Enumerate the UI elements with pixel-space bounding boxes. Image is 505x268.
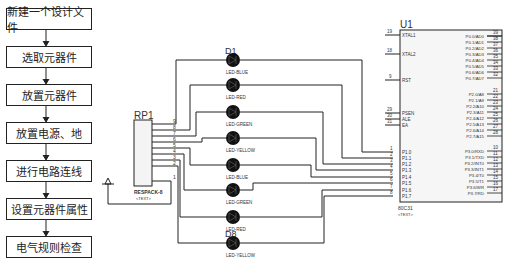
svg-text:21: 21: [493, 88, 499, 93]
led-d3: LED-GREEN: [226, 105, 252, 127]
svg-text:31: 31: [387, 119, 393, 124]
svg-text:32: 32: [493, 72, 499, 77]
svg-text:P2.1/A9: P2.1/A9: [469, 98, 485, 103]
svg-text:9: 9: [389, 74, 392, 79]
svg-text:P1.0: P1.0: [402, 150, 412, 155]
svg-text:P3.1/TXD: P3.1/TXD: [465, 155, 484, 160]
svg-text:LED-GREEN: LED-GREEN: [226, 122, 252, 127]
svg-text:XTAL1: XTAL1: [402, 33, 416, 38]
svg-text:14: 14: [493, 169, 499, 174]
svg-text:28: 28: [493, 130, 499, 135]
svg-text:P0.1/AD1: P0.1/AD1: [466, 40, 485, 45]
svg-text:2: 2: [173, 160, 176, 166]
svg-text:P3.0/RXD: P3.0/RXD: [465, 149, 484, 154]
svg-text:33: 33: [493, 66, 499, 71]
svg-text:11: 11: [493, 151, 498, 156]
svg-text:RST: RST: [402, 78, 411, 83]
svg-text:<TEXT>: <TEXT>: [398, 212, 414, 217]
svg-text:ALE: ALE: [402, 117, 411, 122]
svg-text:LED-GREEN: LED-GREEN: [226, 200, 252, 205]
svg-text:17: 17: [493, 187, 499, 192]
svg-text:P3.6/WR: P3.6/WR: [467, 185, 484, 190]
led-d6: LED-GREEN: [226, 183, 252, 205]
svg-text:39: 39: [493, 30, 499, 35]
svg-text:15: 15: [493, 175, 499, 180]
svg-text:5: 5: [390, 171, 393, 176]
svg-text:34: 34: [493, 60, 499, 65]
svg-text:P2.7/A15: P2.7/A15: [466, 134, 484, 139]
svg-text:1: 1: [390, 146, 393, 151]
rp1-ref: RP1: [134, 110, 154, 121]
svg-text:P1.4: P1.4: [402, 175, 412, 180]
svg-text:P3.7/RD: P3.7/RD: [468, 191, 484, 196]
led-d2: LED-RED: [226, 78, 247, 100]
svg-text:P3.5/T1: P3.5/T1: [469, 179, 485, 184]
svg-text:P0.4/AD4: P0.4/AD4: [466, 58, 485, 63]
svg-text:P2.0/A8: P2.0/A8: [469, 92, 485, 97]
svg-text:P2.6/A14: P2.6/A14: [466, 128, 484, 133]
wires-rp1-to-leds: [176, 60, 230, 243]
svg-text:2: 2: [390, 152, 393, 157]
svg-text:P1.2: P1.2: [402, 162, 412, 167]
svg-text:23: 23: [493, 100, 499, 105]
svg-text:1: 1: [173, 174, 176, 180]
svg-text:LED-YELLOW: LED-YELLOW: [226, 253, 256, 258]
svg-text:8: 8: [390, 190, 393, 195]
svg-text:LED-BLUE: LED-BLUE: [226, 175, 248, 180]
svg-text:PSEN: PSEN: [402, 111, 414, 116]
svg-text:P0.7/AD7: P0.7/AD7: [466, 76, 485, 81]
svg-text:P0.3/AD3: P0.3/AD3: [466, 52, 485, 57]
svg-text:30: 30: [387, 113, 393, 118]
svg-text:26: 26: [493, 118, 499, 123]
svg-text:P3.4/T0: P3.4/T0: [469, 173, 485, 178]
flow-arrows: [43, 30, 49, 236]
svg-text:P2.5/A13: P2.5/A13: [466, 122, 484, 127]
svg-text:LED-YELLOW: LED-YELLOW: [226, 148, 256, 153]
svg-text:P1.3: P1.3: [402, 168, 412, 173]
svg-text:4: 4: [390, 164, 393, 169]
svg-text:27: 27: [493, 124, 499, 129]
svg-text:36: 36: [493, 48, 499, 53]
svg-text:LED-BLUE: LED-BLUE: [226, 70, 248, 75]
svg-text:12: 12: [493, 157, 499, 162]
svg-text:3: 3: [390, 158, 393, 163]
svg-text:RESPACK-8: RESPACK-8: [134, 189, 163, 195]
svg-text:P1.1: P1.1: [402, 156, 412, 161]
svg-text:25: 25: [493, 112, 499, 117]
svg-text:P2.3/A11: P2.3/A11: [467, 110, 485, 115]
svg-text:38: 38: [493, 36, 499, 41]
led-array: D1 LED-BLUE LED-RED LED-GREEN LED-YELLOW…: [225, 46, 256, 258]
svg-text:P0.6/AD6: P0.6/AD6: [466, 70, 485, 75]
svg-text:P1.6: P1.6: [402, 188, 412, 193]
svg-text:<TEXT>: <TEXT>: [136, 196, 152, 201]
svg-text:19: 19: [387, 29, 393, 34]
svg-text:29: 29: [387, 107, 393, 112]
svg-text:24: 24: [493, 106, 499, 111]
schematic-canvas: RP1 RESPACK-8 <TEXT> 9 8 7 6 5 4 3 2 1: [0, 0, 505, 268]
svg-text:80C31: 80C31: [398, 205, 413, 211]
svg-text:13: 13: [493, 163, 499, 168]
led-d5: LED-BLUE: [226, 158, 248, 180]
svg-text:P0.0/AD0: P0.0/AD0: [466, 34, 485, 39]
svg-text:P3.2/INT0: P3.2/INT0: [465, 161, 485, 166]
svg-text:22: 22: [493, 94, 499, 99]
svg-text:U1: U1: [400, 19, 413, 30]
svg-text:P0.5/AD5: P0.5/AD5: [466, 64, 485, 69]
svg-text:P3.3/INT1: P3.3/INT1: [465, 167, 485, 172]
svg-text:6: 6: [390, 177, 393, 182]
svg-text:37: 37: [493, 42, 499, 47]
led-d4: LED-YELLOW: [226, 131, 256, 153]
svg-text:P1.5: P1.5: [402, 181, 412, 186]
mcu-u1: U1 80C31 <TEXT>: [398, 19, 502, 217]
svg-text:P2.4/A12: P2.4/A12: [466, 116, 484, 121]
svg-text:7: 7: [390, 184, 393, 189]
svg-text:10: 10: [493, 145, 499, 150]
svg-text:LED-RED: LED-RED: [226, 95, 247, 100]
svg-text:P2.2/A10: P2.2/A10: [466, 104, 484, 109]
svg-text:P0.2/AD2: P0.2/AD2: [466, 46, 485, 51]
wires-leds-to-mcu: [240, 60, 393, 243]
svg-text:EA: EA: [402, 123, 408, 128]
svg-text:16: 16: [493, 181, 499, 186]
svg-text:P1.7: P1.7: [402, 194, 412, 199]
svg-text:XTAL2: XTAL2: [402, 52, 416, 57]
